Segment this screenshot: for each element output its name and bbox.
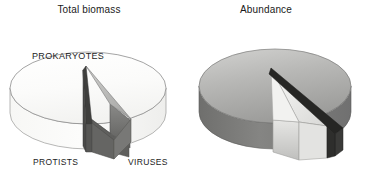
slice-label-protists-biomass: PROTISTS	[33, 157, 78, 167]
slice-label-viruses-biomass: VIRUSES	[128, 157, 168, 167]
figure-container: Total biomass	[0, 0, 377, 180]
chart-panel-total-biomass: Total biomass	[0, 0, 190, 180]
pie-chart-abundance	[187, 0, 377, 180]
chart-panel-abundance: Abundance	[187, 0, 377, 180]
slice-label-prokaryotes-biomass: PROKARYOTES	[32, 51, 104, 61]
pie-chart-total-biomass	[0, 0, 190, 180]
